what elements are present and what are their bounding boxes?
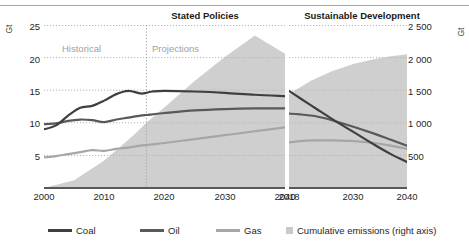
panel-title-sustainable-development: Sustainable Development [282, 10, 442, 21]
right-xtick-2018: 2018 [269, 191, 309, 202]
legend-label-oil: Oil [168, 225, 180, 236]
legend-swatch-oil-icon [140, 229, 164, 232]
legend-label-coal: Coal [76, 225, 96, 236]
legend-item-coal[interactable]: Coal [48, 224, 96, 236]
right-ytick-1000: 1 000 [408, 118, 448, 129]
right-ytick-500: 500 [408, 151, 448, 162]
right-xtick-2040: 2040 [387, 191, 427, 202]
plot-svg-sustainable-development [289, 25, 407, 188]
left-xtick-2000: 2000 [24, 191, 64, 202]
legend-item-cumulative-emissions[interactable]: Cumulative emissions (right axis) [286, 224, 436, 236]
area-cumulative-emissions-right [289, 54, 407, 188]
left-xtick-2030: 2030 [205, 191, 245, 202]
panel-title-stated-policies: Stated Policies [140, 10, 270, 21]
legend-swatch-coal-icon [48, 229, 72, 232]
x-axis-line-left [44, 187, 285, 189]
annotation-historical: Historical [62, 43, 101, 54]
area-cumulative-emissions-left [44, 35, 285, 188]
left-ytick-25: 25 [8, 21, 40, 32]
left-ytick-5: 5 [8, 151, 40, 162]
legend-swatch-cumulative-icon [286, 227, 293, 234]
right-ytick-1500: 1 500 [408, 86, 448, 97]
right-ytick-2500: 2 500 [408, 21, 448, 32]
right-xtick-2030: 2030 [333, 191, 373, 202]
legend-item-gas[interactable]: Gas [216, 224, 261, 236]
legend-label-cumulative-emissions: Cumulative emissions (right axis) [297, 225, 436, 236]
x-axis-line-right [289, 187, 407, 189]
legend-swatch-gas-icon [216, 229, 240, 232]
left-xtick-2020: 2020 [144, 191, 184, 202]
plot-area-sustainable-development [289, 25, 407, 188]
left-ytick-10: 10 [8, 118, 40, 129]
legend-item-oil[interactable]: Oil [140, 224, 180, 236]
left-ytick-20: 20 [8, 54, 40, 65]
left-ytick-15: 15 [8, 86, 40, 97]
left-xtick-2010: 2010 [84, 191, 124, 202]
chart-root: Stated Policies Sustainable Development … [0, 0, 469, 247]
top-divider-rule [0, 5, 469, 6]
right-axis-unit-label: Gt [456, 23, 466, 41]
annotation-projections: Projections [152, 43, 199, 54]
right-ytick-2000: 2 000 [408, 54, 448, 65]
legend-label-gas: Gas [244, 225, 261, 236]
